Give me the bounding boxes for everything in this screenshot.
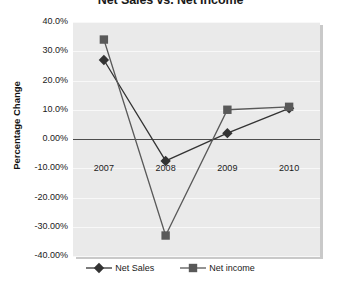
- legend-entry[interactable]: Net Sales: [86, 262, 154, 274]
- legend-label: Net Sales: [115, 263, 154, 273]
- data-point-marker: [100, 35, 108, 43]
- plot-area-shadow-right: [320, 25, 323, 259]
- legend-diamond-icon: [86, 262, 112, 274]
- y-axis-tick-label: 40.0%: [8, 16, 68, 26]
- series-line: [104, 40, 289, 236]
- data-point-marker: [160, 156, 170, 166]
- chart-container: Net Sales vs. Net Income Percentage Chan…: [0, 0, 341, 285]
- chart-legend: Net SalesNet income: [0, 262, 341, 274]
- y-axis-tick-label: -10.00%: [8, 162, 68, 172]
- legend-label: Net income: [209, 263, 255, 273]
- legend-square-icon: [180, 262, 206, 274]
- y-axis-tick-label: 0.00%: [8, 133, 68, 143]
- data-point-marker: [222, 128, 232, 138]
- gridline: [73, 256, 320, 257]
- data-point-marker: [161, 231, 169, 239]
- chart-title: Net Sales vs. Net Income: [0, 0, 341, 7]
- legend-marker: [94, 263, 104, 273]
- data-point-marker: [223, 106, 231, 114]
- series-plot: [73, 22, 320, 256]
- y-axis-tick-label: 20.0%: [8, 75, 68, 85]
- data-point-marker: [285, 103, 293, 111]
- y-axis-tick-label: -20.00%: [8, 192, 68, 202]
- data-point-marker: [99, 55, 109, 65]
- legend-marker: [189, 264, 197, 272]
- y-axis-tick-label: 10.0%: [8, 104, 68, 114]
- y-axis-tick-label: -30.00%: [8, 221, 68, 231]
- legend-entry[interactable]: Net income: [180, 262, 255, 274]
- series-line: [104, 60, 289, 161]
- y-axis-tick-label: 30.0%: [8, 45, 68, 55]
- y-axis-tick-label: -40.00%: [8, 250, 68, 260]
